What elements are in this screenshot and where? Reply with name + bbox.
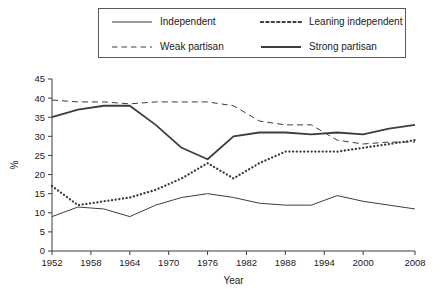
x-tick-label: 1958 bbox=[80, 257, 101, 268]
y-tick-label: 15 bbox=[34, 188, 45, 199]
y-tick-label: 30 bbox=[34, 131, 45, 142]
x-axis-ticks: 1952195819641970197619821988199420002008 bbox=[41, 251, 425, 268]
series-line-leaning-independent bbox=[52, 140, 415, 205]
chart-svg: 051015202530354045 195219581964197019761… bbox=[0, 0, 448, 293]
x-tick-label: 1976 bbox=[197, 257, 218, 268]
y-tick-label: 35 bbox=[34, 112, 45, 123]
y-tick-label: 25 bbox=[34, 150, 45, 161]
y-tick-label: 45 bbox=[34, 73, 45, 84]
chart-figure: Independent Leaning independent Weak par bbox=[0, 0, 448, 293]
x-tick-label: 1994 bbox=[314, 257, 335, 268]
x-tick-label: 1964 bbox=[119, 257, 140, 268]
y-axis-ticks: 051015202530354045 bbox=[34, 73, 52, 256]
chart-plot-area: 051015202530354045 195219581964197019761… bbox=[0, 0, 448, 293]
x-tick-label: 2000 bbox=[353, 257, 374, 268]
x-tick-label: 1970 bbox=[158, 257, 179, 268]
y-tick-label: 40 bbox=[34, 93, 45, 104]
y-tick-label: 10 bbox=[34, 207, 45, 218]
x-tick-label: 1952 bbox=[41, 257, 62, 268]
x-tick-label: 1982 bbox=[236, 257, 257, 268]
y-tick-label: 20 bbox=[34, 169, 45, 180]
y-axis-title: % bbox=[9, 160, 20, 169]
chart-series bbox=[52, 100, 415, 217]
y-tick-label: 5 bbox=[40, 226, 45, 237]
series-line-strong-partisan bbox=[52, 106, 415, 160]
x-tick-label: 2008 bbox=[404, 257, 425, 268]
x-tick-label: 1988 bbox=[275, 257, 296, 268]
series-line-independent bbox=[52, 194, 415, 217]
y-tick-label: 0 bbox=[40, 245, 45, 256]
x-axis-title: Year bbox=[223, 275, 244, 286]
